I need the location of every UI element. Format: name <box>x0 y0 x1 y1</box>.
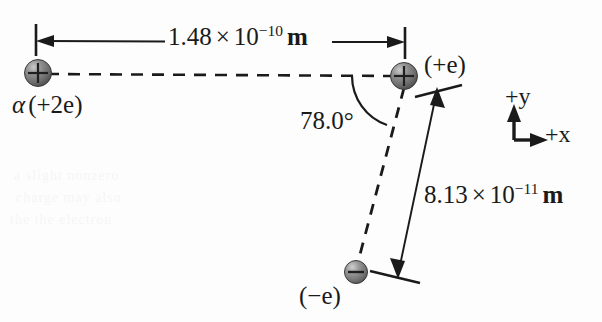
dashed-line-horizontal <box>47 74 396 76</box>
label-proton-charge: (+e) <box>424 52 466 77</box>
distance-top-base: 10 <box>234 23 259 50</box>
alpha-charge: (+2e) <box>28 91 82 118</box>
alpha-symbol: α <box>12 91 25 118</box>
label-alpha-particle: α(+2e) <box>12 92 82 117</box>
distance-diag-exponent: −11 <box>515 180 539 197</box>
label-angle-value: 78.0° <box>300 108 354 133</box>
arrowhead-right <box>387 36 405 48</box>
distance-top-unit: m <box>287 23 308 50</box>
label-distance-horizontal: 1.48×10−10m <box>168 23 308 49</box>
charge-sphere-electron <box>345 261 368 284</box>
distance-top-mantissa: 1.48 <box>168 23 212 50</box>
distance-diag-times: × <box>472 181 486 208</box>
label-axis-x: +x <box>545 122 571 146</box>
dimension-tick-lower <box>370 271 420 283</box>
label-axis-y: +y <box>505 84 531 108</box>
coordinate-axes <box>507 104 548 147</box>
dimension-line-left-segment <box>44 41 165 42</box>
label-electron-charge: (−e) <box>299 283 341 308</box>
distance-top-times: × <box>216 23 230 50</box>
charge-sphere-proton <box>391 63 418 90</box>
distance-diag-unit: m <box>543 181 564 208</box>
arrowhead-left <box>36 35 54 47</box>
dashed-line-diagonal <box>358 88 404 262</box>
distance-top-exponent: −10 <box>259 22 283 39</box>
charge-sphere-alpha <box>25 60 52 87</box>
angle-arc <box>352 76 387 125</box>
physics-diagram-figure: a slight nonzero charge may also the the… <box>0 0 602 322</box>
distance-diag-base: 10 <box>490 181 515 208</box>
label-distance-diagonal: 8.13×10−11m <box>424 181 563 207</box>
distance-diag-mantissa: 8.13 <box>424 181 468 208</box>
